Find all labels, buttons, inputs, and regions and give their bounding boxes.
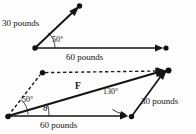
- top-angle-50-label: 50°: [52, 36, 63, 44]
- figure-canvas: 30 pounds 50° 60 pounds 50° F 130° 30 po…: [0, 0, 196, 134]
- bottom-dashed-construction-line: [45, 71, 158, 73]
- top-force-60-label: 60 pounds: [66, 53, 103, 62]
- bottom-dashed-vector-30-dot: [40, 70, 45, 75]
- bottom-force-30-label: 30 pounds: [141, 97, 178, 106]
- bottom-theta-label: θ: [43, 104, 47, 113]
- bottom-resultant-force-label: F: [75, 82, 81, 92]
- bottom-diagram-group: [5, 67, 171, 119]
- top-origin-dot: [32, 45, 37, 50]
- top-vector-60-arrowhead: [155, 44, 164, 51]
- bottom-angle-130-label: 130°: [103, 88, 118, 96]
- bottom-apex-dot: [166, 68, 172, 74]
- bottom-angle-arc-theta: [48, 104, 50, 116]
- bottom-force-60-label: 60 pounds: [40, 121, 77, 130]
- bottom-origin-dot: [5, 114, 11, 120]
- top-force-30-label: 30 pounds: [2, 19, 39, 28]
- top-vector-60-endpoint-dot: [163, 45, 168, 50]
- bottom-angle-50-label: 50°: [22, 96, 33, 104]
- top-vector-30-endpoint-dot: [77, 3, 82, 8]
- top-diagram-group: [32, 3, 168, 51]
